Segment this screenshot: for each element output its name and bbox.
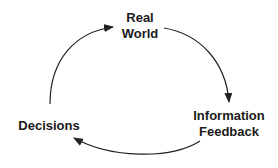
arrow-decisions-to-real-world bbox=[50, 27, 113, 104]
node-real-world-line-1: Real bbox=[110, 10, 170, 26]
node-real-world: Real World bbox=[110, 10, 170, 42]
feedback-loop-diagram: Real World Information Feedback Decision… bbox=[0, 0, 278, 168]
node-information-feedback-line-1: Information bbox=[190, 108, 268, 124]
node-information-feedback: Information Feedback bbox=[190, 108, 268, 140]
node-information-feedback-line-2: Feedback bbox=[190, 124, 268, 140]
node-real-world-line-2: World bbox=[110, 26, 170, 42]
node-decisions: Decisions bbox=[14, 118, 84, 134]
arrow-information-feedback-to-decisions bbox=[74, 138, 200, 154]
arrow-real-world-to-information-feedback bbox=[164, 28, 229, 102]
node-decisions-label: Decisions bbox=[14, 118, 84, 134]
